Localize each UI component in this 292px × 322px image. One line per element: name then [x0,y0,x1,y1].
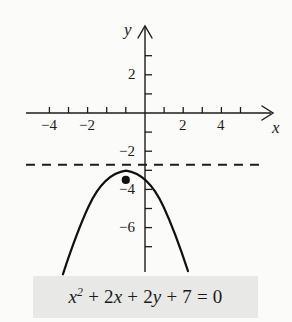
y-tick-label-2: 2 [128,67,136,82]
x-tick-label-minus4: −4 [41,118,57,133]
y-tick-label-minus4: −4 [119,182,135,197]
equation-text: x2 + 2x + 2y + 7 = 0 [68,286,222,308]
equation-term2: + 2 [83,286,114,307]
equation-caption-box: x2 + 2x + 2y + 7 = 0 [33,276,258,318]
x-tick-label-2: 2 [179,118,187,133]
x-tick-label-minus2: −2 [79,118,95,133]
equation-term4: + 7 = 0 [162,286,223,307]
equation-term3: + 2 [122,286,153,307]
x-tick-label-4: 4 [217,118,225,133]
equation-x1: x [68,286,77,307]
y-tick-label-minus6: −6 [119,220,135,235]
plot-canvas [0,0,292,322]
y-axis-ticks [145,56,152,247]
parabola-figure: x y −4 −2 2 4 2 −2 −4 −6 x2 + 2x + 2y + … [0,0,292,322]
y-axis-label: y [124,21,132,38]
y-tick-label-minus2: −2 [119,144,135,159]
equation-y: y [153,286,162,307]
x-axis-label: x [272,119,280,136]
